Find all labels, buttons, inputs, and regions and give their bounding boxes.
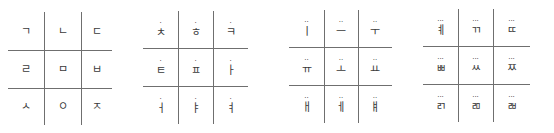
key-label: ㅇ [58,100,68,113]
key-label: ㅅ [21,100,31,113]
key-label: ㄴ [58,25,68,38]
key-label: ㅕ [226,102,236,115]
key-label: ㅎ [191,26,201,39]
key-cell[interactable]: ··ㅣ [289,10,324,47]
key-label: ㅂ [92,63,102,76]
two-dot-grid: ··ㅣ··ㅡ··ㅜ··ㅠ··ㅗ··ㅛ··ㅐ··ㅔ··ㅒ [289,0,392,133]
key-cell[interactable]: ··ㅠ [289,47,324,85]
key-label: ㄲ [471,24,481,37]
key-label: ㄺ [436,100,446,113]
consonant-grid: ㄱㄴㄷㄹㅁㅂㅅㅇㅈ [8,0,112,133]
key-label: ㅉ [507,62,517,75]
key-cell[interactable]: ···ㅃ [423,46,458,84]
key-label: ㅛ [370,63,380,76]
key-label: ㅓ [156,102,166,115]
key-cell[interactable]: ㅁ [44,50,81,88]
key-cell[interactable]: ·ㅌ [143,48,178,86]
key-label: ㅍ [191,64,201,77]
key-cell[interactable]: ·ㅎ [178,11,213,48]
key-cell[interactable]: ㅇ [44,88,81,125]
key-cell[interactable]: ··ㅛ [358,47,392,85]
key-label: ㅠ [302,63,312,76]
key-cell[interactable]: ···ㅉ [493,46,530,84]
key-label: ㅋ [226,26,236,39]
key-cell[interactable]: ···ㅖ [423,9,458,46]
key-cell[interactable]: ··ㅒ [358,85,392,123]
key-label: ㅔ [336,101,346,114]
key-cell[interactable]: ㄱ [8,12,44,50]
key-cell[interactable]: ···ㄼ [493,84,530,122]
key-cell[interactable]: ···ㄺ [423,84,458,122]
key-cell[interactable]: ···ㄲ [458,9,493,46]
key-label: ㄸ [507,24,517,37]
key-cell[interactable]: ㅅ [8,88,44,125]
key-label: ㅈ [92,100,102,113]
key-label: ㅏ [226,64,236,77]
key-label: ㅑ [191,102,201,115]
key-cell[interactable]: ··ㅐ [289,85,324,123]
key-label: ㄻ [471,100,481,113]
key-cell[interactable]: ··ㅡ [324,10,358,47]
key-cell[interactable]: ··ㅜ [358,10,392,47]
key-label: ㅒ [370,101,380,114]
one-dot-grid: ·ㅊ·ㅎ·ㅋ·ㅌ·ㅍ·ㅏ·ㅓ·ㅑ·ㅕ [143,0,248,133]
key-label: ㄷ [92,25,102,38]
key-cell[interactable]: ·ㅍ [178,48,213,86]
key-label: ㄼ [507,100,517,113]
key-label: ㅊ [156,26,166,39]
key-label: ㅌ [156,64,166,77]
key-cell[interactable]: ㅂ [81,50,112,88]
key-cell[interactable]: ·ㅊ [143,11,178,48]
key-label: ㅃ [436,62,446,75]
key-cell[interactable]: ·ㅕ [213,86,248,124]
key-label: ㅁ [58,63,68,76]
key-label: ㄹ [21,63,31,76]
key-cell[interactable]: ·ㅑ [178,86,213,124]
key-cell[interactable]: ㄹ [8,50,44,88]
key-cell[interactable]: ·ㅋ [213,11,248,48]
three-dot-grid: ···ㅖ···ㄲ···ㄸ···ㅃ···ㅆ···ㅉ···ㄺ···ㄻ···ㄼ [423,0,530,133]
key-label: ㅣ [302,25,312,38]
key-cell[interactable]: ··ㅔ [324,85,358,123]
key-label: ㅐ [302,101,312,114]
key-cell[interactable]: ㄷ [81,12,112,50]
key-label: ㅖ [436,24,446,37]
key-cell[interactable]: ㅈ [81,88,112,125]
key-label: ㅡ [336,25,346,38]
key-cell[interactable]: ···ㄸ [493,9,530,46]
key-label: ㅆ [471,62,481,75]
key-cell[interactable]: ㄴ [44,12,81,50]
key-label: ㅗ [336,63,346,76]
key-label: ㄱ [21,25,31,38]
key-cell[interactable]: ···ㅆ [458,46,493,84]
key-cell[interactable]: ·ㅓ [143,86,178,124]
key-label: ㅜ [370,25,380,38]
key-cell[interactable]: ···ㄻ [458,84,493,122]
key-cell[interactable]: ·ㅏ [213,48,248,86]
key-cell[interactable]: ··ㅗ [324,47,358,85]
